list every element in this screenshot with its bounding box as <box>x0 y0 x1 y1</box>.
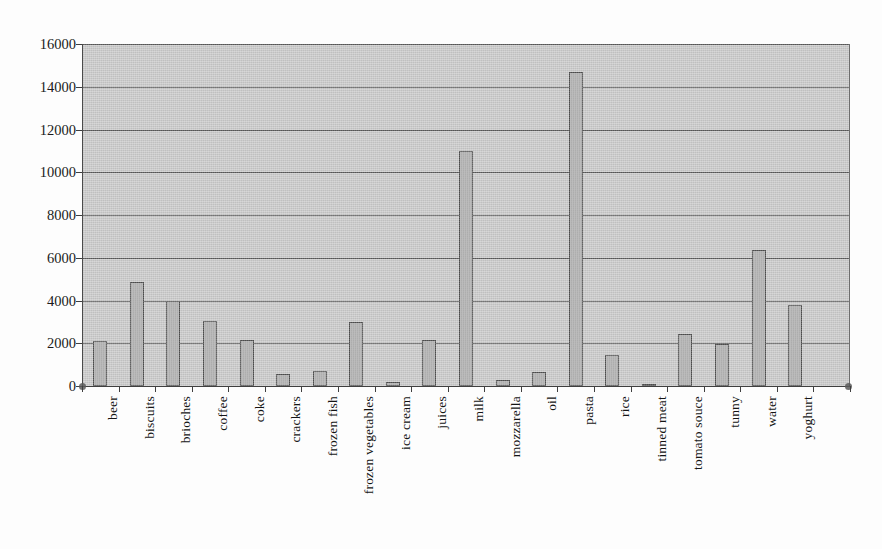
bar-grain <box>167 302 179 386</box>
x-tick-label: tomato souce <box>690 396 706 470</box>
x-tick-mark <box>119 386 120 392</box>
x-tick-label: brioches <box>178 396 194 443</box>
bar <box>678 334 692 386</box>
x-tick-mark <box>155 386 156 392</box>
x-tick-label: yoghurt <box>800 396 816 439</box>
y-tick-label: 14000 <box>4 78 76 95</box>
x-tick-label: oil <box>544 396 560 411</box>
x-tick-mark <box>82 386 83 392</box>
bar-grain <box>131 283 143 385</box>
bar <box>459 151 473 386</box>
bar-grain <box>387 383 399 385</box>
bar-grain <box>94 342 106 385</box>
bar <box>752 250 766 386</box>
gridline <box>82 87 849 88</box>
bar <box>605 355 619 386</box>
bar-grain <box>497 381 509 385</box>
bar-grain <box>460 152 472 385</box>
x-tick-mark <box>850 386 851 392</box>
bar <box>240 340 254 386</box>
bar-grain <box>716 345 728 385</box>
bar <box>569 72 583 386</box>
y-tick-label: 10000 <box>4 164 76 181</box>
y-tick-label: 0 <box>4 378 76 395</box>
gridline <box>82 44 849 45</box>
y-axis: 0200040006000800010000120001400016000 <box>0 0 76 549</box>
x-tick-label: mozzarella <box>508 396 524 457</box>
x-tick-mark <box>192 386 193 392</box>
bar-grain <box>423 341 435 385</box>
x-tick-label: water <box>764 396 780 427</box>
y-tick-label: 2000 <box>4 335 76 352</box>
bar-grain <box>789 306 801 385</box>
x-tick-label: ice cream <box>398 396 414 450</box>
y-axis-line <box>82 44 83 387</box>
x-tick-label: biscuits <box>142 396 158 439</box>
x-tick-mark <box>740 386 741 392</box>
chart-title <box>0 0 882 6</box>
x-tick-label: tinned meat <box>654 396 670 462</box>
gridline <box>82 130 849 131</box>
bar <box>166 301 180 387</box>
x-tick-label: frozen vegetables <box>361 396 377 494</box>
x-tick-mark <box>777 386 778 392</box>
x-axis-line <box>82 386 851 387</box>
y-tick-label: 12000 <box>4 121 76 138</box>
bar <box>532 372 546 386</box>
x-tick-mark <box>265 386 266 392</box>
bar-grain <box>277 375 289 385</box>
x-tick-mark <box>521 386 522 392</box>
x-tick-mark <box>667 386 668 392</box>
x-tick-mark <box>411 386 412 392</box>
x-tick-mark <box>557 386 558 392</box>
bar-chart-figure: 0200040006000800010000120001400016000 be… <box>0 0 882 549</box>
y-tick-label: 4000 <box>4 292 76 309</box>
x-tick-mark <box>301 386 302 392</box>
x-tick-label: juices <box>434 396 450 429</box>
bar <box>276 374 290 386</box>
x-tick-label: milk <box>471 396 487 422</box>
bar <box>715 344 729 386</box>
bar-grain <box>241 341 253 385</box>
x-tick-mark <box>631 386 632 392</box>
x-tick-mark <box>448 386 449 392</box>
bar-grain <box>350 323 362 385</box>
x-tick-label: beer <box>105 396 121 420</box>
x-tick-label: frozen fish <box>325 396 341 456</box>
x-tick-label: coffee <box>215 396 231 431</box>
x-tick-label: coke <box>252 396 268 422</box>
x-tick-mark <box>228 386 229 392</box>
x-tick-mark <box>704 386 705 392</box>
bar-grain <box>204 322 216 385</box>
bar <box>313 371 327 386</box>
y-tick-label: 6000 <box>4 249 76 266</box>
x-tick-mark <box>484 386 485 392</box>
bar <box>203 321 217 386</box>
y-tick-label: 16000 <box>4 36 76 53</box>
x-tick-label: crackers <box>288 396 304 443</box>
x-tick-label: pasta <box>581 396 597 425</box>
plot-area <box>82 44 850 386</box>
x-tick-label: rice <box>617 396 633 417</box>
bar-grain <box>679 335 691 385</box>
bar-grain <box>533 373 545 385</box>
x-tick-label: tunny <box>727 396 743 428</box>
x-tick-mark <box>594 386 595 392</box>
x-tick-mark <box>813 386 814 392</box>
bar-grain <box>570 73 582 385</box>
bar <box>93 341 107 386</box>
y-tick-label: 8000 <box>4 207 76 224</box>
bar-grain <box>314 372 326 385</box>
bar <box>422 340 436 386</box>
bar <box>130 282 144 386</box>
bar <box>788 305 802 386</box>
x-tick-mark <box>375 386 376 392</box>
bar-grain <box>606 356 618 385</box>
bar <box>349 322 363 386</box>
bar-grain <box>753 251 765 385</box>
x-tick-mark <box>338 386 339 392</box>
